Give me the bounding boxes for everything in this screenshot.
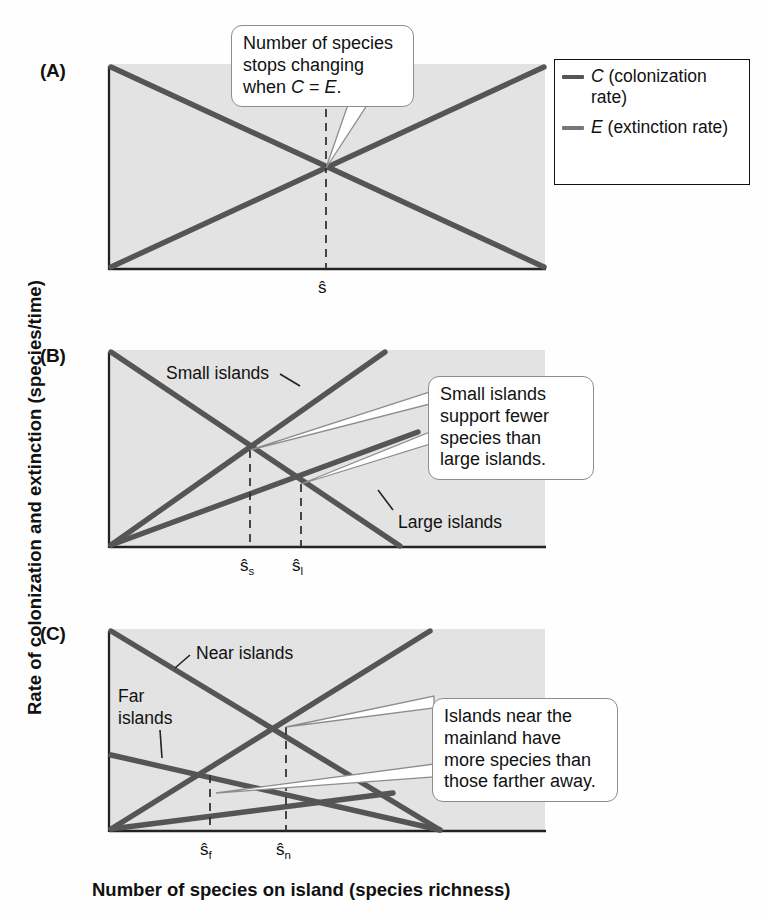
legend-text-c: (colonization rate): [591, 66, 707, 107]
panel-a-callout: Number of species stops changing when C …: [231, 25, 414, 107]
legend-item-extinction: E (extinction rate): [562, 117, 741, 138]
panel-c-callout-leader-far: [216, 764, 434, 793]
panel-a-callout-line2: stops changing: [243, 55, 403, 77]
panel-c-annotation-far-islands-line1: Far: [118, 686, 144, 707]
panel-c-annotation-near-islands: Near islands: [196, 643, 293, 664]
panel-c-callout-line1: Islands near the: [444, 706, 607, 728]
panel-a-callout-period: .: [337, 77, 342, 97]
panel-b-callout-line4: large islands.: [440, 449, 583, 471]
panel-c-far-islands-pointer: [160, 730, 162, 758]
panel-a-callout-eq: =: [304, 77, 325, 97]
panel-a-callout-e: E: [325, 77, 337, 97]
panel-c-callout-line2: mainland have: [444, 728, 607, 750]
panel-a-callout-when: when: [243, 77, 291, 97]
legend-symbol-c: C: [591, 66, 604, 86]
legend-label-extinction: E (extinction rate): [591, 117, 728, 138]
panel-b-callout-line2: support fewer: [440, 406, 583, 428]
legend-swatch-extinction: [562, 126, 584, 130]
panel-a-callout-c: C: [291, 77, 304, 97]
panel-c-near-islands-pointer: [175, 655, 190, 668]
panel-c-callout-leader-near: [286, 696, 434, 727]
legend-swatch-colonization: [562, 75, 584, 79]
panel-b-callout: Small islands support fewer species than…: [428, 376, 594, 480]
legend: C (colonization rate) E (extinction rate…: [554, 59, 750, 185]
panel-b-annotation-large-islands: Large islands: [398, 512, 502, 533]
legend-symbol-e: E: [591, 117, 603, 137]
panel-b-annotation-small-islands: Small islands: [166, 363, 269, 384]
panel-b-callout-line3: species than: [440, 428, 583, 450]
panel-a-callout-line3: when C = E.: [243, 77, 403, 99]
panel-c-callout: Islands near the mainland have more spec…: [432, 698, 618, 802]
legend-item-colonization: C (colonization rate): [562, 66, 741, 107]
panel-c-annotation-far-islands-line2: islands: [118, 708, 172, 729]
panel-c-callout-line4: those farther away.: [444, 771, 607, 793]
panel-c-callout-line3: more species than: [444, 750, 607, 772]
panel-b-callout-line1: Small islands: [440, 384, 583, 406]
legend-label-colonization: C (colonization rate): [591, 66, 741, 107]
island-biogeography-figure: Rate of colonization and extinction (spe…: [0, 0, 762, 917]
panel-a-callout-line1: Number of species: [243, 33, 403, 55]
legend-text-e: (extinction rate): [603, 117, 728, 137]
